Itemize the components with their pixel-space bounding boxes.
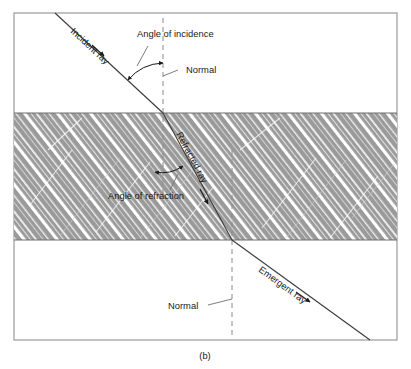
refraction-figure: Incident ray Angle of incidence Normal R… <box>0 0 411 369</box>
normal-top-label: Normal <box>186 64 216 75</box>
normal-bottom-label: Normal <box>168 300 198 311</box>
refraction-diagram: Incident ray Angle of incidence Normal R… <box>0 0 411 369</box>
angle-of-incidence-label: Angle of incidence <box>137 28 214 39</box>
angle-of-refraction-label: Angle of refraction <box>108 190 184 201</box>
figure-caption: (b) <box>199 350 210 361</box>
